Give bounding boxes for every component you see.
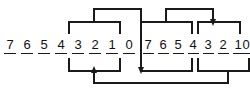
left-digit-3: 3 <box>74 37 81 52</box>
right-digit-7: 7 <box>144 37 151 52</box>
right-bottom-right-bracket <box>198 58 249 71</box>
left-digit-5: 5 <box>40 37 47 52</box>
right-digit-1: 1 <box>234 37 241 52</box>
right-top-right-bracket <box>198 22 240 34</box>
right-top-left-bracket <box>141 22 192 34</box>
left-bottom-feed-line <box>94 71 228 83</box>
right-digit-0: 0 <box>242 37 249 52</box>
left-digit-6: 6 <box>23 37 30 52</box>
right-digit-2: 2 <box>219 37 226 52</box>
right-digit-5: 5 <box>174 37 181 52</box>
left-digit-0: 0 <box>125 37 132 52</box>
figure-root: 7 6 5 4 3 2 1 0 7 6 5 4 3 2 1 0 <box>0 0 250 95</box>
right-digit-6: 6 <box>159 37 166 52</box>
right-top-cross-run <box>166 9 213 22</box>
left-top-inner-bracket <box>69 22 120 34</box>
left-digit-4: 4 <box>57 37 64 52</box>
right-bit-field: 7 6 5 4 3 2 1 0 <box>143 37 250 54</box>
left-digit-7: 7 <box>6 37 13 52</box>
right-digit-4: 4 <box>189 37 196 52</box>
arrow-up-into-left-field <box>91 66 97 73</box>
left-top-outer-run <box>94 9 141 68</box>
left-digit-2: 2 <box>91 37 98 52</box>
right-digit-3: 3 <box>204 37 211 52</box>
left-digit-1: 1 <box>108 37 115 52</box>
left-bit-field: 7 6 5 4 3 2 1 0 <box>4 37 135 54</box>
bit-routing-diagram: 7 6 5 4 3 2 1 0 7 6 5 4 3 2 1 0 <box>0 0 250 95</box>
right-bottom-left-bracket <box>141 58 192 71</box>
